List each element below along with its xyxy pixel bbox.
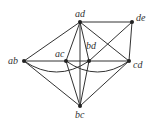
edge-ad-ab	[24, 22, 80, 61]
edge-ab-bc	[24, 61, 80, 106]
node-label-ad: ad	[75, 9, 85, 19]
graph-diagram: addeabacbdcdbc	[0, 0, 154, 123]
node-label-de: de	[136, 13, 145, 23]
node-ad	[78, 20, 82, 24]
node-de	[130, 20, 134, 24]
node-bd	[87, 59, 91, 63]
edge-ad-ac	[66, 22, 80, 61]
node-cd	[127, 59, 131, 63]
node-label-ab: ab	[8, 56, 18, 66]
edge-de-cd	[129, 22, 132, 61]
node-ac	[64, 59, 68, 63]
node-ab	[22, 59, 26, 63]
edge-ab-bd	[24, 61, 89, 72]
node-label-bc: bc	[75, 110, 84, 120]
node-bc	[78, 104, 82, 108]
node-label-bd: bd	[86, 41, 96, 51]
node-label-ac: ac	[55, 49, 64, 59]
node-label-cd: cd	[133, 60, 142, 70]
